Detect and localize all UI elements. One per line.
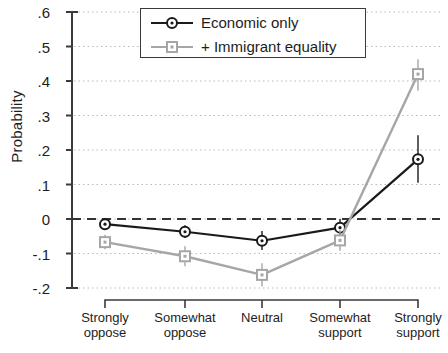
data-point-center: [338, 226, 341, 229]
data-point-center: [417, 73, 420, 76]
data-point-center: [261, 273, 264, 276]
data-point-center: [416, 158, 419, 161]
data-point-center: [260, 239, 263, 242]
data-point-center: [339, 239, 342, 242]
x-tick-label: Somewhatoppose: [154, 310, 215, 340]
data-point-center: [103, 223, 106, 226]
legend-label: Economic only: [201, 14, 299, 32]
probability-line-chart: Probability .6.5.4.3.2.10-.1-.2 Strongly…: [0, 0, 448, 353]
data-point-center: [104, 241, 107, 244]
chart-legend: Economic only+ Immigrant equality: [140, 8, 366, 58]
x-tick-label: Somewhatsupport: [309, 310, 370, 340]
legend-square-marker-icon: [149, 37, 195, 57]
legend-entry: Economic only: [141, 11, 365, 35]
x-tick-label: Stronglysupport: [394, 310, 442, 340]
x-tick-label: Neutral: [241, 310, 283, 325]
legend-circle-marker-icon: [149, 13, 195, 33]
legend-label: + Immigrant equality: [201, 38, 336, 56]
legend-entry: + Immigrant equality: [141, 35, 365, 59]
data-point-center: [183, 230, 186, 233]
x-tick-label: Stronglyoppose: [81, 310, 129, 340]
data-point-center: [184, 255, 187, 258]
